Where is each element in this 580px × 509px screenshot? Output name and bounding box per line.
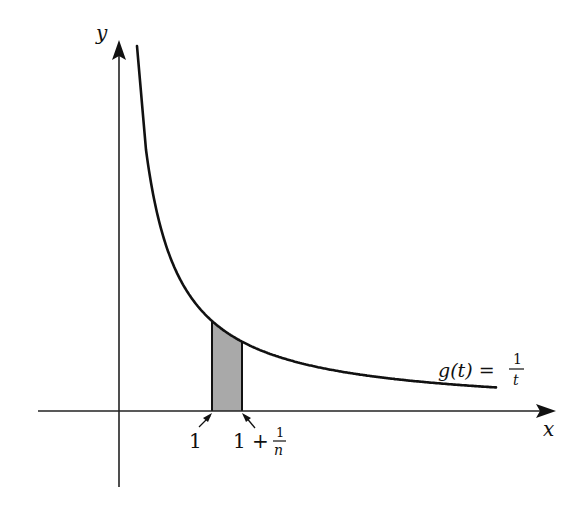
function-label-numerator: 1 [513, 351, 522, 367]
function-label-denominator: t [513, 372, 519, 388]
function-diagram: y x g(t) = 1 t 1 1 + 1 n [0, 0, 580, 509]
shaded-area-region [212, 321, 242, 411]
interval-end-label-numerator: 1 [276, 425, 284, 440]
y-axis-label: y [95, 21, 108, 45]
x-axis-label: x [543, 417, 554, 441]
interval-end-label-prefix: 1 + [233, 429, 269, 453]
function-label-lhs: g(t) = [438, 359, 495, 381]
curve-g-of-t [137, 46, 496, 387]
left-endpoint-arrowhead-icon [203, 413, 212, 422]
interval-end-label-denominator: n [274, 442, 283, 458]
interval-start-label: 1 [189, 429, 202, 453]
